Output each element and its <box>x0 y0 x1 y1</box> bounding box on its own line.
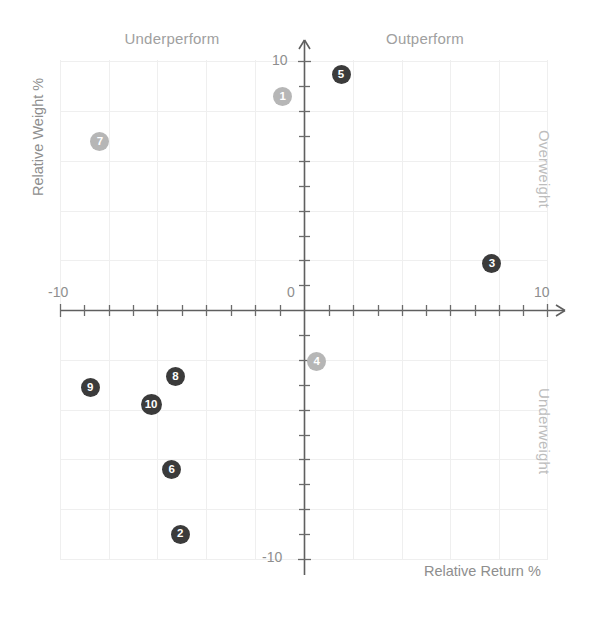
scatter-point-5: 5 <box>332 65 351 84</box>
scatter-point-6: 6 <box>162 460 181 479</box>
scatter-point-label: 5 <box>338 69 344 81</box>
scatter-point-label: 8 <box>172 371 178 383</box>
scatter-point-label: 10 <box>145 399 158 411</box>
scatter-point-10: 10 <box>141 394 162 415</box>
scatter-point-1: 1 <box>273 87 292 106</box>
scatter-points-layer: 51734891062 <box>0 0 605 624</box>
scatter-point-label: 2 <box>177 528 183 540</box>
scatter-point-8: 8 <box>166 367 185 386</box>
scatter-point-3: 3 <box>482 254 501 273</box>
scatter-point-2: 2 <box>171 525 190 544</box>
scatter-point-label: 1 <box>279 91 285 103</box>
scatter-point-7: 7 <box>90 132 109 151</box>
scatter-point-label: 3 <box>489 258 495 270</box>
scatter-point-label: 6 <box>169 464 175 476</box>
scatter-point-4: 4 <box>307 352 326 371</box>
scatter-point-label: 7 <box>97 136 103 148</box>
scatter-point-label: 4 <box>313 356 319 368</box>
scatter-point-label: 9 <box>87 382 93 394</box>
scatter-point-9: 9 <box>81 378 100 397</box>
scatter-chart: Underperform Outperform Overweight Under… <box>0 0 605 624</box>
